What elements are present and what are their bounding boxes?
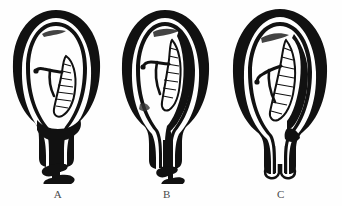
figure-panel-a: A [4, 0, 112, 206]
placenta-previa-figure: A [0, 0, 342, 206]
fetus-body-c [270, 40, 295, 121]
cervical-canal-plug-b [163, 140, 173, 168]
uterus-diagram-b [113, 6, 221, 184]
left-wall-patch-b [139, 103, 150, 111]
fetus-body-b [162, 40, 181, 111]
figure-panel-b: B [113, 0, 221, 206]
placenta-lower-margin-c [285, 128, 300, 142]
external-os-blob-a [42, 164, 75, 185]
fundal-decidua-shading-b [153, 29, 179, 37]
cord-insertion-dot-b [140, 64, 145, 69]
umbilical-cord-branch-c [269, 70, 275, 102]
cord-insertion-dot-c [254, 79, 259, 84]
uterus-diagram-c [224, 6, 338, 184]
cord-insertion-dot-a [33, 68, 38, 73]
uterus-diagram-a [4, 6, 112, 184]
panel-label-b: B [113, 188, 221, 200]
umbilical-cord-branch-a [50, 70, 54, 96]
external-os-blob-b [156, 166, 185, 184]
fundal-decidua-shading-a [42, 30, 66, 37]
figure-panel-c: C [224, 0, 338, 206]
cervical-canal-plug-a [50, 140, 62, 166]
umbilical-cord-branch-b [156, 62, 160, 94]
panel-label-c: C [224, 188, 338, 200]
panel-label-a: A [4, 188, 112, 200]
